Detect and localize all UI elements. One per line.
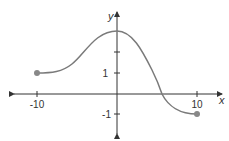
y-tick-label--1: -1	[102, 109, 111, 120]
endpoint-left	[34, 70, 40, 76]
x-tick-label-10: 10	[191, 99, 203, 110]
y-tick-label-1: 1	[102, 68, 108, 79]
x-axis-label: x	[218, 94, 225, 106]
y-axis-label: y	[107, 10, 115, 22]
endpoint-right	[194, 111, 200, 117]
chart: -10 10 1 -1 x y	[0, 0, 229, 141]
x-tick-label--10: -10	[30, 99, 45, 110]
